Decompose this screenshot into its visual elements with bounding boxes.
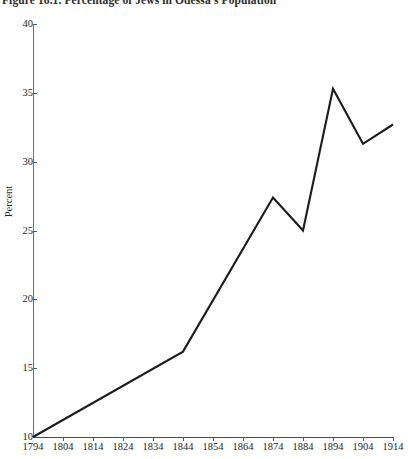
series-line-jewish-population-percentage bbox=[33, 89, 393, 437]
